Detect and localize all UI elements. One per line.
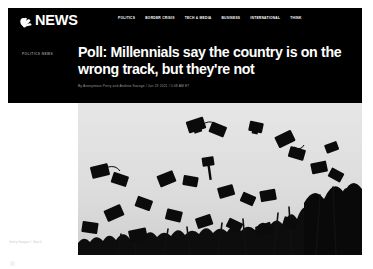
nav-item-tech-media[interactable]: TECH & MEDIA — [185, 17, 212, 20]
page-title: Poll: Millennials say the country is on … — [78, 44, 353, 79]
photo-credit: Getty Images / Stock — [9, 241, 42, 244]
nav-item-politics[interactable]: POLITICS — [118, 17, 135, 20]
site-logo[interactable]: NEWS — [17, 13, 78, 28]
nav-item-border-crisis[interactable]: BORDER CRISIS — [145, 17, 174, 20]
article-page: NEWS POLITICS BORDER CRISIS TECH & MEDIA… — [0, 0, 373, 269]
article-kicker[interactable]: POLITICS NEWS — [22, 53, 53, 56]
site-masthead: NEWS — [8, 8, 362, 34]
nav-item-business[interactable]: BUSINESS — [221, 17, 240, 20]
article-byline: By Anonymous Perry and Andrew Savage / J… — [78, 85, 353, 88]
primary-nav: POLITICS BORDER CRISIS TECH & MEDIA BUSI… — [118, 17, 302, 20]
nbc-peacock-icon — [17, 13, 32, 28]
lead-photo — [78, 103, 362, 255]
nav-item-think[interactable]: THINK — [290, 17, 301, 20]
footer-decoration — [10, 261, 15, 266]
brand-name: NEWS — [35, 13, 78, 28]
headline-area: Poll: Millennials say the country is on … — [78, 44, 353, 88]
nav-item-international[interactable]: INTERNATIONAL — [250, 17, 280, 20]
